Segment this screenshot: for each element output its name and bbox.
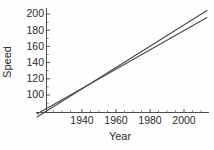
y-tick-label: 180 bbox=[26, 24, 44, 36]
y-tick-label: 160 bbox=[26, 40, 44, 52]
y-tick-label: 140 bbox=[26, 56, 44, 68]
x-tick-label: 1980 bbox=[138, 114, 162, 126]
series-line-upper bbox=[37, 11, 207, 118]
x-tick-label: 1960 bbox=[104, 114, 128, 126]
x-tick-label: 1940 bbox=[70, 114, 94, 126]
series-line-lower bbox=[37, 18, 207, 115]
x-axis-title: Year bbox=[109, 130, 132, 142]
y-tick-label: 100 bbox=[26, 88, 44, 100]
chart-figure: 100 120 140 160 180 200 1940 1960 1980 2… bbox=[0, 0, 214, 150]
y-tick-labels: 100 120 140 160 180 200 bbox=[26, 7, 44, 100]
y-tick-label: 120 bbox=[26, 72, 44, 84]
x-tick-label: 2000 bbox=[172, 114, 196, 126]
y-tick-label: 200 bbox=[26, 7, 44, 19]
y-axis-title: Speed bbox=[1, 46, 13, 78]
line-chart: 100 120 140 160 180 200 1940 1960 1980 2… bbox=[0, 0, 214, 150]
x-tick-labels: 1940 1960 1980 2000 bbox=[70, 114, 196, 126]
